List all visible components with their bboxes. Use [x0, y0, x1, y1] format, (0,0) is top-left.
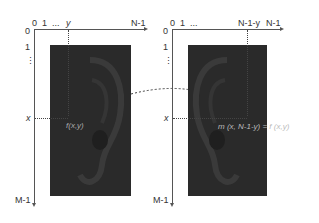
right-x-guide — [173, 118, 247, 119]
right-ytick-x: x — [164, 113, 169, 123]
right-ear-image — [188, 45, 267, 196]
right-xtick-n1y: N-1-y — [238, 18, 260, 28]
right-ytick-vdots: ⋮ — [164, 56, 173, 66]
right-xtick-0: 0 — [170, 18, 175, 28]
right-y-arrow — [170, 203, 174, 207]
mapping-curve — [0, 0, 319, 223]
right-ytick-m1: M-1 — [153, 195, 169, 205]
right-ytick-1: 1 — [163, 42, 168, 52]
ear-mirrored-icon — [188, 45, 267, 196]
right-x-axis — [172, 29, 282, 30]
right-y-guide — [247, 30, 248, 116]
right-xtick-n1: N-1 — [266, 18, 281, 28]
right-ytick-0: 0 — [163, 26, 168, 36]
right-xtick-ellipsis: ... — [190, 18, 198, 28]
right-xtick-1: 1 — [180, 18, 185, 28]
right-x-arrow — [280, 27, 284, 31]
right-formula: m (x, N-1-y) = f (x,y) — [218, 122, 289, 131]
